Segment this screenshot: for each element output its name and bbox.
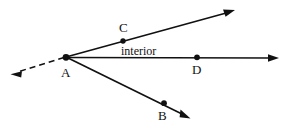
- point-dot-d: [194, 54, 200, 60]
- point-label-a: A: [61, 66, 70, 79]
- ray-ad: [66, 54, 279, 62]
- geometry-figure: A B C D interior: [0, 0, 293, 124]
- vertex-dot-a: [63, 54, 70, 61]
- point-label-b: B: [158, 109, 167, 122]
- point-dot-c: [120, 38, 125, 43]
- ray-ab: [66, 57, 191, 119]
- interior-region-label: interior: [121, 45, 156, 57]
- geometry-canvas: [0, 0, 293, 124]
- point-dot-b: [161, 100, 167, 106]
- point-label-c: C: [119, 21, 128, 34]
- point-label-d: D: [192, 63, 201, 76]
- dashed-extension-ray: [11, 58, 65, 78]
